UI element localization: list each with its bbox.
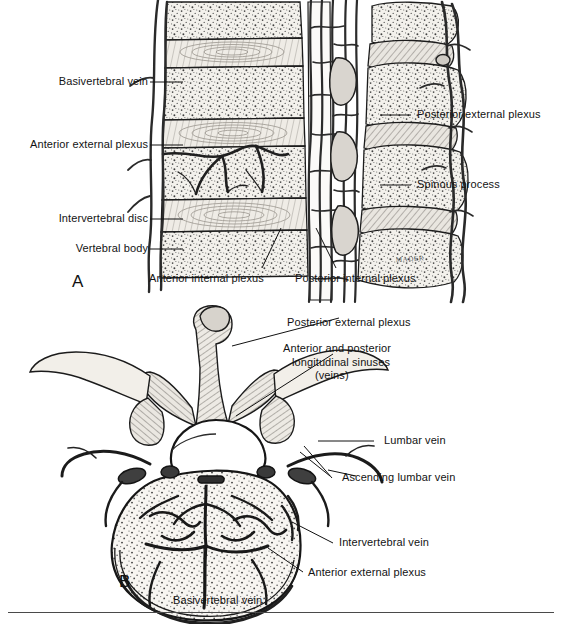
label-anterior-internal-plexus-a: Anterior internal plexus [149,272,264,285]
panel-a: MADER Basivertebral vein Anterior extern… [0,0,562,305]
label-posterior-internal-plexus-a: Posterior internal plexus [295,272,416,285]
panel-b: Posterior external plexus Anterior and p… [0,300,562,624]
panel-a-illustration: MADER [0,0,562,305]
label-vertebral-body-a: Vertebral body [76,242,148,255]
footer-divider [8,612,554,613]
label-longitudinal-sinuses-line3: (veins) [283,369,459,383]
label-lumbar-vein-b: Lumbar vein [384,434,446,447]
label-intervertebral-vein-b: Intervertebral vein [339,536,429,549]
figure-root: MADER Basivertebral vein Anterior extern… [0,0,562,624]
label-intervertebral-disc-a: Intervertebral disc [59,212,148,225]
label-longitudinal-sinuses-line1: Anterior and posterior [283,342,459,356]
label-ascending-lumbar-vein-b: Ascending lumbar vein [342,471,455,484]
label-anterior-external-plexus-b: Anterior external plexus [308,566,426,579]
panel-letter-a: A [72,272,83,292]
label-posterior-external-plexus-b: Posterior external plexus [287,316,411,329]
label-basivertebral-vein-a: Basivertebral vein [59,75,148,88]
label-anterior-external-plexus-a: Anterior external plexus [30,138,148,151]
label-posterior-external-plexus-a: Posterior external plexus [417,108,541,121]
label-longitudinal-sinuses-line2: longitudinal sinuses [283,356,459,370]
panel-b-illustration [0,300,562,624]
label-longitudinal-sinuses-b: Anterior and posterior longitudinal sinu… [283,342,459,383]
panel-letter-b: B [119,572,130,592]
label-basivertebral-vein-b: Basivertebral vein [173,594,262,607]
label-spinous-process-a: Spinous process [417,178,500,191]
